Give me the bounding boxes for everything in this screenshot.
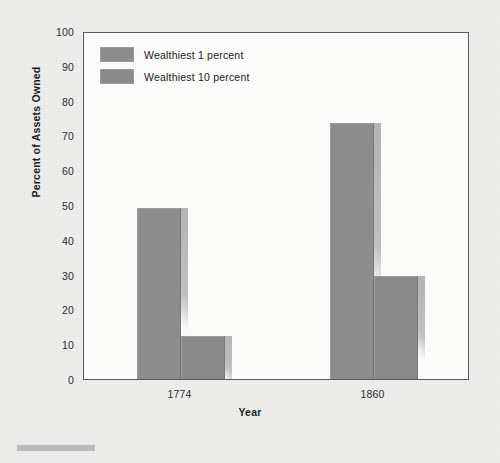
y-axis-tick-label: 10 — [62, 339, 74, 351]
bar-1774-series-1 — [137, 208, 181, 379]
plot-inner: Wealthiest 1 percent Wealthiest 10 perce… — [84, 33, 468, 379]
bar-chart-figure: Percent of Assets Owned 0102030405060708… — [0, 0, 500, 463]
x-axis-tick-label: 1860 — [360, 388, 384, 400]
x-axis-title: Year — [0, 406, 500, 418]
bar-1774-series-2 — [181, 336, 225, 380]
legend-swatch-series-1 — [100, 47, 134, 62]
plot-area: Wealthiest 1 percent Wealthiest 10 perce… — [83, 32, 469, 380]
y-axis-tick-label: 30 — [62, 270, 74, 282]
y-axis-tick-label: 90 — [62, 61, 74, 73]
y-axis-tick-label: 100 — [56, 26, 74, 38]
y-axis-tick-label: 20 — [62, 304, 74, 316]
y-axis-tick-label: 60 — [62, 165, 74, 177]
y-axis-tick-label: 50 — [62, 200, 74, 212]
bar-1860-series-2 — [374, 276, 418, 379]
x-axis-tick-label: 1774 — [167, 388, 191, 400]
legend-swatch-series-2 — [100, 69, 134, 84]
legend-entry: Wealthiest 10 percent — [100, 69, 250, 84]
footer-rule — [17, 445, 95, 451]
legend-label-series-1: Wealthiest 1 percent — [144, 49, 244, 61]
legend-entry: Wealthiest 1 percent — [100, 47, 250, 62]
y-axis-tick-labels: 0102030405060708090100 — [40, 32, 80, 380]
y-axis-tick-label: 40 — [62, 235, 74, 247]
page-background: Percent of Assets Owned 0102030405060708… — [0, 0, 500, 463]
y-axis-tick-label: 80 — [62, 96, 74, 108]
y-axis-tick-label: 70 — [62, 130, 74, 142]
legend-label-series-2: Wealthiest 10 percent — [144, 71, 250, 83]
chart-legend: Wealthiest 1 percent Wealthiest 10 perce… — [100, 47, 250, 84]
bar-1860-series-1 — [330, 123, 374, 379]
y-axis-tick-label: 0 — [68, 374, 74, 386]
